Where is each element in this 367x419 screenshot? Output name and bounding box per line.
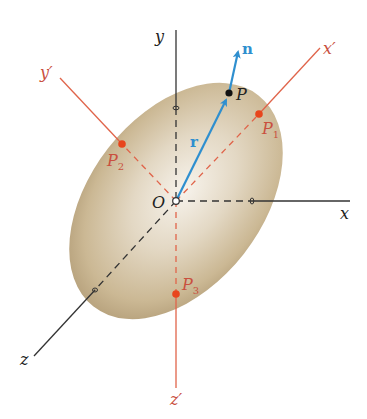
label-p: P: [235, 85, 247, 104]
label-y: y: [154, 27, 165, 46]
label-y-prime: y′: [39, 63, 53, 82]
point-p1: [255, 110, 263, 118]
point-p3: [172, 290, 180, 298]
point-p: [225, 89, 232, 96]
label-origin: O: [152, 193, 165, 212]
label-x: x: [340, 204, 349, 223]
point-p2: [118, 140, 126, 148]
label-z-prime: z′: [169, 390, 182, 409]
label-x-prime: x′: [323, 39, 336, 58]
label-z: z: [19, 350, 29, 369]
label-r: r: [190, 133, 199, 151]
inertia-ellipsoid-diagram: y x z x′ y′ z′ O P P1 P2 P3 r n: [0, 0, 367, 419]
origin-point: [173, 198, 180, 205]
label-n: n: [242, 40, 253, 58]
